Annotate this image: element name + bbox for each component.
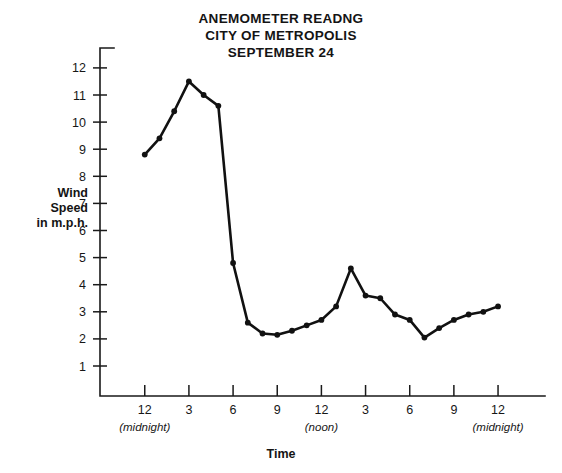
data-point: [274, 332, 280, 338]
y-tick-label-group: 123456789101112: [72, 61, 86, 373]
y-tick-label: 4: [79, 278, 86, 292]
data-point: [142, 152, 148, 158]
data-point: [304, 322, 310, 328]
x-tick-label: 6: [230, 403, 237, 417]
x-tick-group: [145, 385, 498, 396]
x-tick-label: 9: [274, 403, 281, 417]
data-point: [480, 309, 486, 315]
data-point: [363, 293, 369, 299]
y-tick-label: 12: [72, 61, 86, 75]
x-tick-label: 12: [314, 403, 328, 417]
x-tick-label: 3: [362, 403, 369, 417]
data-point: [215, 103, 221, 109]
data-point: [495, 303, 501, 309]
x-tick-sublabel: (noon): [305, 421, 338, 433]
data-point: [407, 317, 413, 323]
data-point: [436, 325, 442, 331]
y-tick-label: 5: [79, 251, 86, 265]
y-tick-label: 3: [79, 305, 86, 319]
data-point: [245, 320, 251, 326]
data-point: [392, 312, 398, 318]
data-point: [157, 135, 163, 141]
wind-speed-line: [145, 81, 498, 337]
plot-area: 123456789101112 12(midnight)36912(noon)3…: [0, 0, 562, 473]
data-point: [451, 317, 457, 323]
x-tick-label-group: 12(midnight)36912(noon)36912(midnight): [119, 403, 524, 433]
y-tick-label: 8: [79, 170, 86, 184]
data-point: [377, 295, 383, 301]
axis-lines: [100, 48, 545, 396]
data-point: [333, 303, 339, 309]
axes-group: [100, 48, 545, 396]
data-series-group: [142, 79, 501, 341]
data-point: [171, 108, 177, 114]
y-tick-label: 7: [79, 197, 86, 211]
x-tick-sublabel: (midnight): [472, 421, 523, 433]
data-point: [348, 266, 354, 272]
y-tick-label: 1: [79, 360, 86, 374]
data-point: [186, 79, 192, 85]
x-tick-sublabel: (midnight): [119, 421, 170, 433]
y-tick-label: 2: [79, 332, 86, 346]
y-tick-label: 6: [79, 224, 86, 238]
x-tick-label: 12: [491, 403, 505, 417]
line-chart-svg: 123456789101112 12(midnight)36912(noon)3…: [0, 0, 562, 473]
data-point: [201, 92, 207, 98]
wind-speed-points: [142, 79, 501, 341]
x-tick-label: 3: [185, 403, 192, 417]
data-point: [260, 331, 266, 337]
y-tick-label: 9: [79, 143, 86, 157]
chart-page: ANEMOMETER READNG CITY OF METROPOLIS SEP…: [0, 0, 562, 473]
data-point: [230, 260, 236, 266]
x-tick-label: 12: [138, 403, 152, 417]
data-point: [422, 335, 428, 341]
data-point: [466, 312, 472, 318]
data-point: [289, 328, 295, 334]
y-tick-label: 10: [72, 116, 86, 130]
data-point: [319, 317, 325, 323]
y-tick-label: 11: [73, 89, 86, 103]
x-tick-label: 9: [450, 403, 457, 417]
x-tick-label: 6: [406, 403, 413, 417]
